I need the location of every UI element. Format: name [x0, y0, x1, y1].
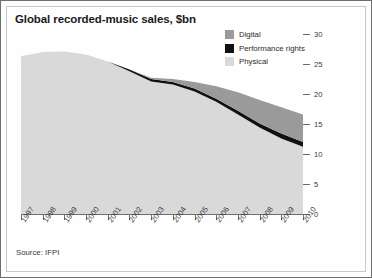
- y-tick-label: 30: [314, 30, 322, 39]
- y-tick-dash-icon: [303, 154, 310, 155]
- y-tick-dash-icon: [303, 64, 310, 65]
- area-series-physical: [21, 51, 303, 214]
- source-note: Source: IFPI: [16, 248, 59, 257]
- y-tick-dash-icon: [303, 124, 310, 125]
- chart-title: Global recorded-music sales, $bn: [15, 13, 196, 25]
- y-tick-dash-icon: [303, 184, 310, 185]
- y-axis-tick: 20: [303, 89, 322, 99]
- y-axis-tick: 5: [303, 179, 318, 189]
- y-tick-label: 25: [314, 60, 322, 69]
- y-axis-tick: 10: [303, 149, 322, 159]
- y-axis-tick: 15: [303, 119, 322, 129]
- y-tick-label: 15: [314, 120, 322, 129]
- y-tick-label: 10: [314, 150, 322, 159]
- y-axis-tick: 30: [303, 29, 322, 39]
- stacked-area-svg: [21, 34, 303, 214]
- y-tick-label: 20: [314, 90, 322, 99]
- y-tick-dash-icon: [303, 34, 310, 35]
- y-axis-tick: 25: [303, 59, 322, 69]
- chart-frame: Global recorded-music sales, $bn Digital…: [0, 0, 372, 278]
- plot-area: [21, 34, 303, 214]
- y-tick-dash-icon: [303, 94, 310, 95]
- y-tick-label: 5: [314, 180, 318, 189]
- y-axis: 051015202530: [303, 34, 349, 216]
